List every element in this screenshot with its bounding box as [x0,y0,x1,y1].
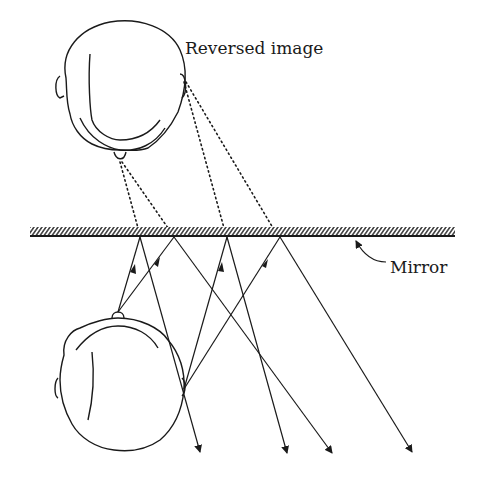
mirror-leader-arrow [356,241,386,262]
reversed-image-label: Reversed image [185,38,323,58]
reflected-rays [140,237,412,453]
virtual-ray-lines [120,82,273,228]
mirror [30,227,455,236]
mirror-label: Mirror [390,257,448,277]
reversed-head-illustration [56,21,186,159]
mirror-reflection-diagram: Reversed image Mirror [0,0,482,483]
incident-rays [118,237,280,389]
observer-head-illustration [55,312,185,451]
